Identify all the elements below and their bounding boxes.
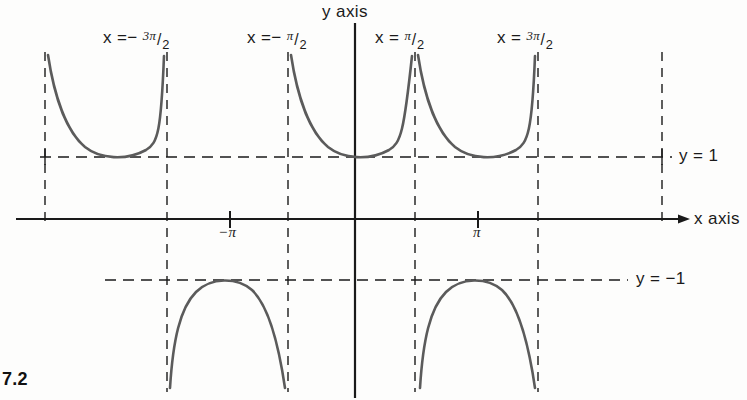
asymptote-label-sign: − bbox=[271, 28, 281, 47]
curve-branch-right-lower bbox=[420, 280, 535, 388]
x-axis-arrowhead bbox=[678, 215, 690, 224]
curve-branch-center-upper bbox=[291, 55, 412, 157]
curve-branch-left-upper bbox=[48, 55, 164, 157]
asymptote-label-prefix: x = bbox=[103, 28, 127, 47]
asymptote-label-prefix: x = bbox=[497, 28, 521, 47]
curve-branch-right-upper bbox=[418, 55, 535, 157]
asymptote-label-prefix: x = bbox=[247, 28, 271, 47]
asymptote-label-fraction: π/2 bbox=[404, 29, 424, 52]
asymptote-label-neg-3pi-2: x =− 3π/2 bbox=[103, 28, 170, 52]
asymptote-label-neg-pi-2: x =− π/2 bbox=[247, 28, 307, 52]
x-tick-label-pi: π bbox=[473, 224, 481, 241]
reference-line-label-y-equals-minus-1: y = −1 bbox=[636, 269, 686, 289]
x-axis-label: x axis bbox=[694, 209, 740, 229]
x-tick-label-neg-pi: −π bbox=[218, 224, 236, 241]
curve-branch-left-lower bbox=[170, 280, 285, 388]
asymptote-lines bbox=[45, 52, 662, 392]
asymptote-label-denominator: 2 bbox=[299, 37, 307, 52]
asymptote-label-fraction: 3π/2 bbox=[143, 29, 170, 52]
reference-line-label-y-equals-1: y = 1 bbox=[679, 146, 718, 166]
asymptote-label-prefix: x = bbox=[375, 28, 399, 47]
asymptote-label-pi-2: x = π/2 bbox=[375, 28, 425, 52]
asymptote-label-denominator: 2 bbox=[546, 37, 554, 52]
figure-container: y axis x axis −π π x =− 3π/2 x =− π/2 x … bbox=[0, 0, 747, 400]
figure-number: 7.2 bbox=[2, 369, 28, 390]
secant-curves bbox=[48, 55, 535, 388]
x-axis bbox=[16, 215, 690, 224]
asymptote-label-numerator: 3π bbox=[526, 29, 540, 43]
asymptote-label-numerator: π bbox=[404, 29, 411, 43]
asymptote-label-3pi-2: x = 3π/2 bbox=[497, 28, 553, 52]
asymptote-label-denominator: 2 bbox=[162, 37, 170, 52]
y-axis-label: y axis bbox=[322, 2, 368, 22]
asymptote-label-numerator: π bbox=[287, 29, 294, 43]
asymptote-label-sign: − bbox=[127, 28, 137, 47]
asymptote-label-fraction: π/2 bbox=[287, 29, 307, 52]
asymptote-label-numerator: 3π bbox=[143, 29, 157, 43]
asymptote-label-denominator: 2 bbox=[417, 37, 425, 52]
asymptote-label-fraction: 3π/2 bbox=[526, 29, 553, 52]
secant-function-plot bbox=[0, 0, 747, 400]
